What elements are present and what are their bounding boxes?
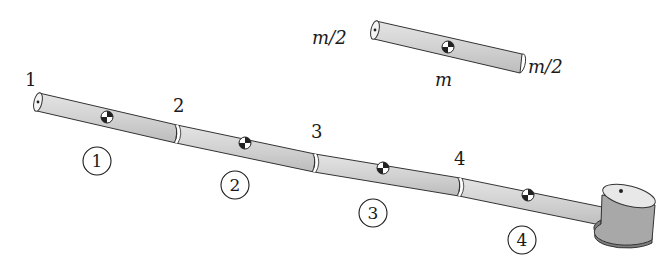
node-label-4: 4 (454, 148, 465, 169)
inset-center-mass-label: m (435, 69, 452, 90)
hub-pivot-dot (619, 189, 623, 193)
segment-label-1: 1 (92, 151, 103, 171)
inset-right-mass-label: m/2 (528, 56, 563, 77)
node-label-2: 2 (173, 95, 184, 116)
main-beam (32, 92, 612, 227)
inset-center-of-mass-icon (442, 41, 454, 53)
node-label-1: 1 (25, 69, 36, 90)
node-label-3: 3 (311, 121, 322, 142)
beam-node-1-dot (37, 101, 40, 104)
segment-4-center-of-mass-icon (522, 189, 534, 201)
segment-1-center-of-mass-icon (101, 111, 113, 123)
segment-label-4: 4 (517, 230, 528, 250)
beam-segment-3 (314, 154, 460, 196)
inset-node-dot (374, 29, 377, 32)
inset-element: m/2 m/2 m (312, 20, 563, 90)
segment-label-3: 3 (368, 203, 379, 223)
segment-3-center-of-mass-icon (377, 162, 389, 174)
beam-segment-diagram: m/2 m/2 m (0, 0, 668, 263)
inset-left-mass-label: m/2 (312, 27, 347, 48)
beam-segment-4 (459, 178, 612, 227)
hub-cylinder (594, 180, 658, 248)
segment-2-center-of-mass-icon (239, 137, 251, 149)
segment-label-2: 2 (230, 175, 241, 195)
